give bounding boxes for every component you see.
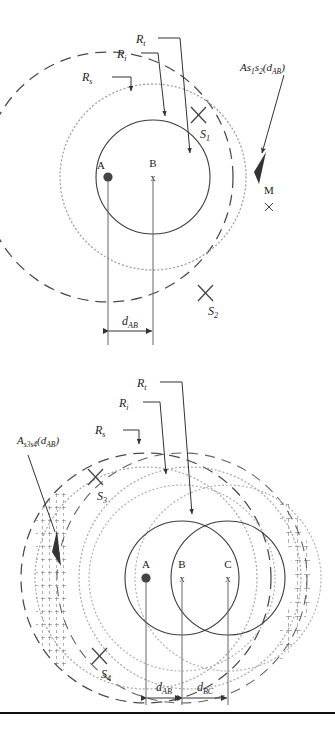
leader-area-top (262, 75, 284, 153)
circle-ri-c-bottom (79, 467, 301, 689)
label-s2: S2 (208, 304, 218, 320)
point-a-bottom (141, 573, 150, 582)
label-rt-bottom: Rt (136, 376, 147, 392)
figure-top: Rs Ri Rt As1s2(dAB) S1 S2 A B x M dAB (0, 32, 285, 345)
region-m-hatch (205, 90, 265, 270)
label-point-b-top: B (149, 157, 156, 169)
point-a-top (103, 172, 112, 181)
caption-divider (0, 712, 335, 714)
leader-rs-bottom (123, 430, 139, 444)
label-rt-top: Rt (135, 32, 146, 48)
marker-point-b-top: x (151, 172, 156, 183)
label-rs-bottom: Rs (94, 423, 105, 439)
marker-s4 (92, 648, 107, 664)
label-area-s3s4: As3s4(dAB) (16, 434, 59, 449)
leader-rs-top (112, 77, 131, 91)
leader-rt-bottom (160, 382, 192, 514)
label-dbc-bottom: dBC (197, 680, 214, 696)
marker-s1 (191, 107, 206, 123)
label-point-c-bottom: C (224, 558, 231, 570)
region-m-xmark (265, 203, 273, 211)
label-point-a-bottom: A (142, 558, 150, 570)
label-point-a-top: A (97, 159, 105, 171)
label-s3: S3 (97, 489, 107, 505)
label-dab-bottom: dAB (156, 680, 172, 696)
leader-ri-bottom (143, 402, 166, 474)
label-s4: S4 (101, 667, 111, 683)
label-region-m: M (264, 184, 274, 196)
diagram-svg: Rs Ri Rt As1s2(dAB) S1 S2 A B x M dAB (0, 0, 335, 734)
region-left-hatch-bottom (36, 490, 66, 670)
marker-point-c-bottom: x (226, 573, 231, 584)
diagram-canvas: Rs Ri Rt As1s2(dAB) S1 S2 A B x M dAB (0, 0, 335, 734)
marker-point-b-bottom: x (180, 573, 185, 584)
label-dab-top: dAB (122, 314, 138, 330)
label-area-s1s2: As1s2(dAB) (239, 61, 285, 76)
marker-s2 (198, 285, 213, 301)
circle-rs-top (0, 52, 233, 302)
figure-bottom: Rs Ri Rt As3s4(dAB) S3 S4 A B x C x dAB … (16, 376, 335, 705)
label-point-b-bottom: B (178, 558, 185, 570)
label-rs-top: Rs (81, 70, 92, 86)
label-ri-top: Ri (116, 47, 127, 63)
label-ri-bottom: Ri (118, 396, 129, 412)
